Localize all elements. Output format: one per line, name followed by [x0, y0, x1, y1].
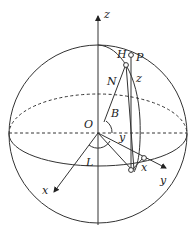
- point-ground-marker: [129, 168, 134, 173]
- label-x-segment: x: [141, 161, 148, 174]
- label-H: H: [116, 48, 127, 61]
- label-y-axis: y: [159, 174, 167, 187]
- meridian-through-P: [98, 45, 140, 172]
- projection-line: [98, 133, 132, 170]
- label-L: L: [85, 156, 93, 169]
- label-z-segment: z: [135, 72, 142, 85]
- point-P-marker: [129, 53, 134, 58]
- sphere-coordinate-diagram: z H P N z B O y L x y x: [0, 0, 196, 233]
- label-x-axis: x: [42, 184, 49, 197]
- label-B: B: [110, 107, 119, 120]
- point-x-marker: [142, 156, 147, 161]
- label-N: N: [106, 75, 117, 88]
- point-H-marker: [124, 63, 129, 68]
- label-z-axis: z: [103, 8, 110, 21]
- diagram-canvas: z H P N z B O y L x y x: [0, 0, 196, 233]
- angle-B-arc: [106, 121, 112, 133]
- label-origin: O: [84, 118, 93, 131]
- label-P: P: [135, 51, 144, 64]
- label-y-segment: y: [118, 131, 126, 144]
